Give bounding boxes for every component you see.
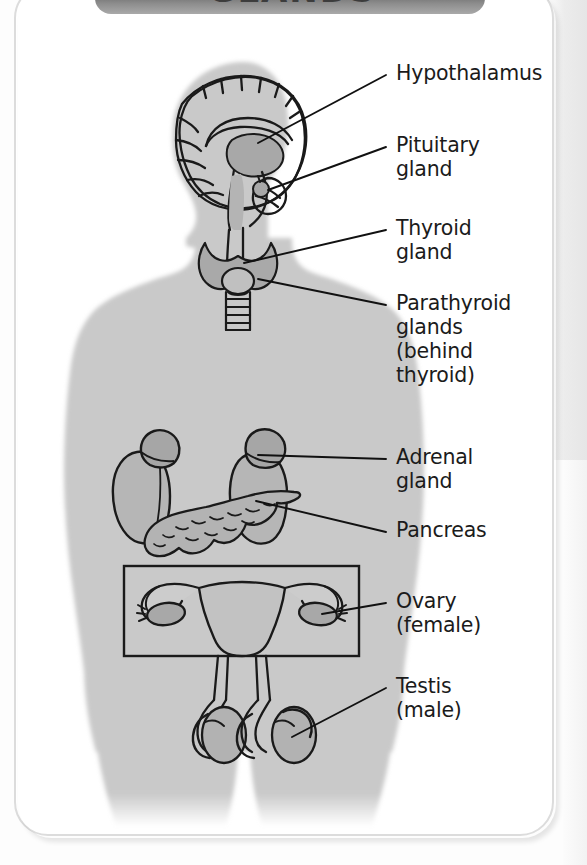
label-adrenal-line1: Adrenal (396, 446, 473, 470)
label-pituitary-line1: Pituitary (396, 134, 480, 158)
label-pancreas: Pancreas (396, 519, 487, 543)
label-testis-line2: (male) (396, 699, 462, 723)
label-hypothalamus: Hypothalamus (396, 62, 542, 86)
label-ovary-line2: (female) (396, 614, 481, 638)
label-adrenal-line2: gland (396, 470, 452, 494)
label-parathyroid-line3: (behind (396, 340, 473, 364)
label-ovary-line1: Ovary (396, 590, 456, 614)
label-thyroid-line2: gland (396, 241, 452, 265)
label-thyroid-line1: Thyroid (396, 217, 471, 241)
label-pituitary-line2: gland (396, 158, 452, 182)
label-parathyroid-line4: thyroid) (396, 364, 475, 388)
endocrine-glands-figure (0, 0, 587, 865)
page-root: GLANDS (0, 0, 587, 865)
label-parathyroid-line2: glands (396, 316, 463, 340)
label-parathyroid-line1: Parathyroid (396, 292, 511, 316)
label-testis-line1: Testis (396, 675, 452, 699)
